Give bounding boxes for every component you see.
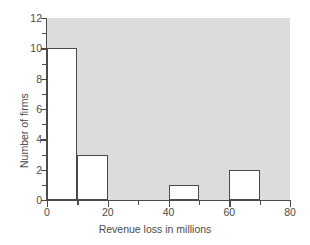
x-tick-label: 40: [157, 207, 181, 218]
y-tick-minor: [42, 124, 46, 125]
x-tick-label: 20: [96, 207, 120, 218]
histogram-bar: [77, 155, 107, 201]
histogram-bar: [229, 170, 259, 200]
x-tick-minor: [199, 201, 200, 205]
y-tick-minor: [42, 185, 46, 186]
y-tick-label: 10: [20, 43, 42, 54]
histogram-bar: [47, 48, 77, 200]
y-tick-label: 8: [20, 74, 42, 85]
x-tick-label: 80: [278, 207, 302, 218]
y-axis-line: [46, 18, 47, 201]
y-axis-title-text: Number of firms: [18, 93, 30, 168]
x-tick-minor: [77, 201, 78, 205]
x-tick-label: 60: [217, 207, 241, 218]
y-tick-minor: [42, 94, 46, 95]
y-tick-minor: [42, 64, 46, 65]
y-tick-minor: [42, 33, 46, 34]
x-tick-label: 0: [35, 207, 59, 218]
histogram-figure: 024681012 020406080 Revenue loss in mill…: [0, 0, 310, 245]
histogram-bar: [169, 185, 199, 200]
y-tick-label: 12: [20, 13, 42, 24]
x-tick-minor: [260, 201, 261, 205]
y-tick-minor: [42, 155, 46, 156]
x-axis-title: Revenue loss in millions: [0, 223, 310, 235]
x-tick-minor: [138, 201, 139, 205]
y-tick-label: 0: [20, 195, 42, 206]
y-axis-title: Number of firms: [6, 50, 20, 170]
